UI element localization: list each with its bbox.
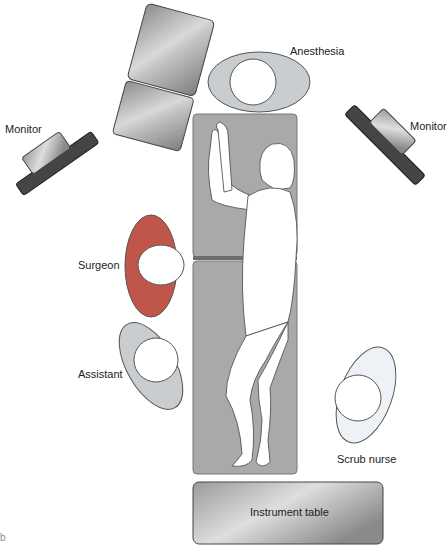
label-scrub-nurse: Scrub nurse: [337, 453, 396, 465]
monitor-right-unit: [345, 92, 438, 185]
label-surgeon: Surgeon: [78, 259, 120, 271]
label-monitor-left: Monitor: [5, 123, 42, 135]
corner-mark: b: [0, 532, 6, 543]
label-anesthesia: Anesthesia: [290, 45, 344, 57]
surgeon-position: [125, 215, 184, 317]
label-instrument-table: Instrument table: [250, 506, 329, 518]
anesthesia-position: [208, 52, 310, 112]
scrub-nurse-position: [324, 339, 407, 451]
assistant-position: [106, 312, 196, 419]
label-assistant: Assistant: [78, 368, 123, 380]
label-monitor-right: Monitor: [410, 120, 447, 132]
